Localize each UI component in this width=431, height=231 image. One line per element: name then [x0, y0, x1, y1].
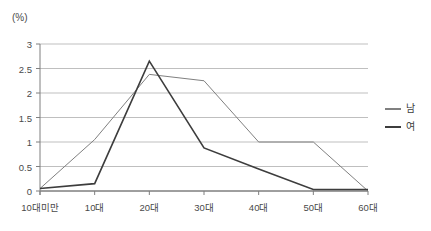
- y-axis-tick-label: 2: [4, 88, 32, 99]
- y-axis-tick-label: 1: [4, 137, 32, 148]
- x-axis-tick-label: 40대: [249, 200, 269, 214]
- data-series: [40, 61, 368, 191]
- legend-line-swatch-icon: [385, 108, 401, 110]
- legend-line-swatch-icon: [385, 126, 401, 129]
- x-axis-tick-label: 30대: [194, 200, 214, 214]
- x-axis-tick-label: 60대: [358, 200, 378, 214]
- x-axis-tick-label: 10대: [85, 200, 105, 214]
- legend-item-여[interactable]: 여: [385, 122, 415, 132]
- x-axis-tick-label: 20대: [140, 200, 160, 214]
- y-axis-tick-label: 0: [4, 186, 32, 197]
- gridlines: [40, 44, 368, 191]
- y-axis-tick-label: 1.5: [4, 112, 32, 123]
- x-axis-tick-label: 10대미만: [21, 200, 59, 214]
- line-chart: (%) 00.511.522.53 10대미만10대20대30대40대50대60…: [0, 0, 431, 231]
- legend-item-남[interactable]: 남: [385, 104, 415, 114]
- y-axis-unit-label: (%): [12, 12, 28, 23]
- y-axis-tick-label: 0.5: [4, 161, 32, 172]
- y-axis-tick-label: 2.5: [4, 63, 32, 74]
- legend-label: 남: [406, 104, 415, 114]
- legend-label: 여: [406, 122, 415, 132]
- x-axis-tick-label: 50대: [304, 200, 324, 214]
- y-axis-tick-label: 3: [4, 39, 32, 50]
- plot-area: [0, 0, 431, 231]
- axis-lines: [36, 44, 368, 195]
- series-line-남: [40, 74, 368, 191]
- x-axis-ticks: [40, 191, 368, 195]
